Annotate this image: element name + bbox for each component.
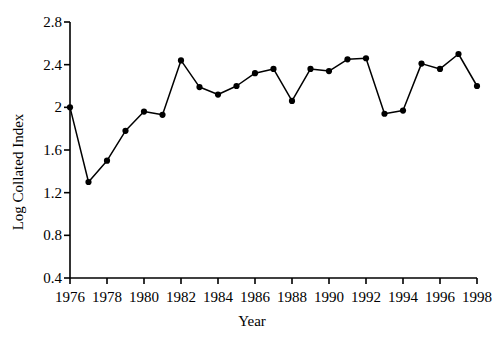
- data-point-marker: [418, 61, 424, 67]
- data-point-marker: [104, 158, 110, 164]
- data-point-marker: [233, 83, 239, 89]
- data-point-marker: [381, 111, 387, 117]
- y-tick-label: 2.4: [20, 56, 62, 73]
- series-line: [70, 54, 477, 182]
- data-series-group: [67, 51, 480, 185]
- data-point-marker: [159, 112, 165, 118]
- data-point-marker: [85, 179, 91, 185]
- chart-figure: 0.40.81.21.622.42.8 19761978198019821984…: [0, 0, 504, 344]
- data-point-marker: [326, 68, 332, 74]
- data-point-marker: [400, 107, 406, 113]
- data-point-marker: [196, 84, 202, 90]
- data-point-marker: [67, 104, 73, 110]
- data-point-marker: [178, 57, 184, 63]
- x-tick-label: 1992: [351, 289, 381, 306]
- y-axis-ticks: [64, 22, 70, 278]
- x-axis-title: Year: [0, 313, 504, 330]
- data-point-marker: [270, 66, 276, 72]
- data-point-marker: [363, 55, 369, 61]
- x-tick-label: 1982: [166, 289, 196, 306]
- x-tick-label: 1980: [129, 289, 159, 306]
- data-point-marker: [307, 66, 313, 72]
- y-axis-title: Log Collated Index: [10, 114, 27, 231]
- data-point-marker: [437, 66, 443, 72]
- axes: [70, 22, 477, 278]
- x-tick-label: 1976: [55, 289, 85, 306]
- data-point-marker: [252, 70, 258, 76]
- x-tick-label: 1978: [92, 289, 122, 306]
- x-tick-label: 1988: [277, 289, 307, 306]
- x-tick-label: 1996: [425, 289, 455, 306]
- data-point-marker: [122, 128, 128, 134]
- x-tick-label: 1998: [462, 289, 492, 306]
- x-axis-ticks: [70, 278, 477, 284]
- y-tick-label: 0.4: [20, 270, 62, 287]
- data-point-marker: [215, 91, 221, 97]
- data-point-marker: [141, 109, 147, 115]
- x-tick-label: 1990: [314, 289, 344, 306]
- data-point-marker: [289, 98, 295, 104]
- y-tick-label: 2.8: [20, 14, 62, 31]
- x-tick-label: 1994: [388, 289, 418, 306]
- data-point-marker: [455, 51, 461, 57]
- x-tick-label: 1986: [240, 289, 270, 306]
- data-point-marker: [474, 83, 480, 89]
- data-point-marker: [344, 56, 350, 62]
- x-tick-label: 1984: [203, 289, 233, 306]
